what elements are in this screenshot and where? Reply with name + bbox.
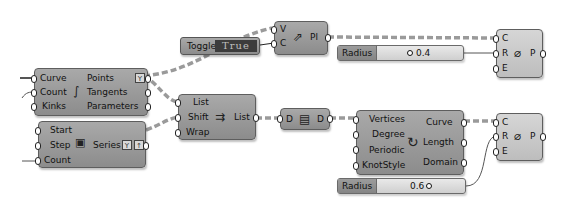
output-grip-domain[interactable] xyxy=(461,159,467,167)
output-grip-series[interactable] xyxy=(143,142,149,150)
input-grip-step[interactable] xyxy=(35,142,41,150)
output-grip-p[interactable] xyxy=(540,133,546,141)
output-label-length: Length xyxy=(423,137,454,148)
input-label-count: Count xyxy=(40,87,67,98)
input-grip-start[interactable] xyxy=(35,127,41,135)
input-label-vertices: Vertices xyxy=(369,114,405,125)
data-component[interactable]: D ▤ D xyxy=(280,108,330,130)
output-label-points: Points xyxy=(87,73,114,84)
input-grip-kinks[interactable] xyxy=(31,103,37,111)
input-label-shift: Shift xyxy=(188,112,208,123)
series-component[interactable]: Start Step Count ▣ Series Y ↑ xyxy=(38,121,146,168)
graft-flag-icon: Y xyxy=(135,73,145,83)
output-label-curve: Curve xyxy=(426,117,453,128)
input-label-e: E xyxy=(502,63,508,74)
output-grip-pl[interactable] xyxy=(325,34,331,42)
slider-value: 0.6 xyxy=(410,179,424,193)
input-grip-count[interactable] xyxy=(31,89,37,97)
input-grip-v[interactable] xyxy=(271,26,277,34)
pipe-icon: ⌀ xyxy=(514,47,521,59)
input-grip-list[interactable] xyxy=(175,99,181,107)
input-grip-vertices[interactable] xyxy=(353,116,359,124)
input-grip-count[interactable] xyxy=(35,157,41,165)
output-label-parameters: Parameters xyxy=(87,101,139,112)
input-label-e: E xyxy=(502,146,508,157)
output-label-p: P xyxy=(530,131,535,142)
input-label-r: R xyxy=(502,48,508,59)
input-grip-c[interactable] xyxy=(271,40,277,48)
pipe-icon: ⌀ xyxy=(514,130,521,142)
graft-flag-icon: Y xyxy=(122,140,132,150)
input-label-list: List xyxy=(193,97,209,108)
toggle-name: Toggle xyxy=(187,41,216,51)
input-label-knotstyle: KnotStyle xyxy=(362,160,405,171)
toggle-value[interactable]: True xyxy=(215,40,257,52)
nurbs-curve-icon: ↻ xyxy=(407,136,419,148)
input-label-c: C xyxy=(502,117,508,128)
slider-knob[interactable] xyxy=(407,50,413,56)
input-grip-r[interactable] xyxy=(493,50,499,58)
output-grip-length[interactable] xyxy=(461,139,467,147)
input-label-c: C xyxy=(280,38,286,49)
output-grip-points[interactable] xyxy=(145,75,151,83)
input-grip-c[interactable] xyxy=(493,119,499,127)
input-label-count: Count xyxy=(44,155,71,166)
radius-slider-top[interactable]: Radius 0.4 xyxy=(337,45,464,61)
input-label-kinks: Kinks xyxy=(42,101,66,112)
output-label-domain: Domain xyxy=(423,157,458,168)
input-grip-wrap[interactable] xyxy=(175,129,181,137)
radius-slider-bottom[interactable]: Radius 0.6 xyxy=(337,178,466,194)
pipe-component-top[interactable]: C R E ⌀ P xyxy=(496,29,543,78)
input-grip-shift[interactable] xyxy=(175,114,181,122)
shift-list-icon: ⇉ xyxy=(215,111,225,123)
series-icon: ▣ xyxy=(75,137,85,149)
output-grip-p[interactable] xyxy=(540,50,546,58)
shift-list-component[interactable]: List Shift Wrap ⇉ List xyxy=(178,94,256,140)
input-label-periodic: Periodic xyxy=(369,145,405,156)
output-grip-d[interactable] xyxy=(327,115,333,123)
input-grip-degree[interactable] xyxy=(353,131,359,139)
output-label-d: D xyxy=(317,114,324,125)
divide-curve-component[interactable]: Curve Count Kinks ∫ Points Tangents Para… xyxy=(34,68,148,116)
input-label-degree: Degree xyxy=(372,129,405,140)
pick-icon: ⇗ xyxy=(293,31,303,43)
pipe-component-bottom[interactable]: C R E ⌀ P xyxy=(496,113,543,161)
slider-name: Radius xyxy=(338,46,377,60)
input-grip-c[interactable] xyxy=(493,35,499,43)
output-label-p: P xyxy=(530,48,535,59)
slider-name: Radius xyxy=(338,179,377,193)
data-icon: ▤ xyxy=(299,113,310,125)
slider-knob[interactable] xyxy=(426,183,432,189)
output-grip-tangents[interactable] xyxy=(145,89,151,97)
grasshopper-canvas[interactable]: Curve Count Kinks ∫ Points Tangents Para… xyxy=(0,0,566,208)
input-grip-d[interactable] xyxy=(277,115,283,123)
output-grip-curve[interactable] xyxy=(461,119,467,127)
input-label-curve: Curve xyxy=(40,73,67,84)
output-label-series: Series xyxy=(93,140,121,151)
pick-component[interactable]: V C ⇗ Pl xyxy=(274,21,328,55)
input-label-wrap: Wrap xyxy=(186,127,209,138)
output-grip-list[interactable] xyxy=(253,114,259,122)
output-label-pl: Pl xyxy=(310,32,318,43)
input-grip-curve[interactable] xyxy=(31,75,37,83)
input-grip-periodic[interactable] xyxy=(353,146,359,154)
input-label-c: C xyxy=(502,33,508,44)
output-label-tangents: Tangents xyxy=(87,87,127,98)
input-grip-e[interactable] xyxy=(493,65,499,73)
output-grip-parameters[interactable] xyxy=(145,103,151,111)
input-grip-knotstyle[interactable] xyxy=(353,162,359,170)
input-grip-r[interactable] xyxy=(493,133,499,141)
input-label-v: V xyxy=(280,24,286,35)
output-label-list: List xyxy=(234,112,250,123)
input-label-step: Step xyxy=(50,140,71,151)
input-label-d: D xyxy=(286,114,293,125)
slider-value: 0.4 xyxy=(416,46,430,60)
input-grip-e[interactable] xyxy=(493,148,499,156)
nurbs-curve-component[interactable]: Vertices Degree Periodic KnotStyle ↻ Cur… xyxy=(356,110,464,175)
input-label-r: R xyxy=(502,131,508,142)
divide-curve-icon: ∫ xyxy=(73,85,79,97)
boolean-toggle[interactable]: Toggle True xyxy=(180,37,260,55)
input-label-start: Start xyxy=(50,125,72,136)
